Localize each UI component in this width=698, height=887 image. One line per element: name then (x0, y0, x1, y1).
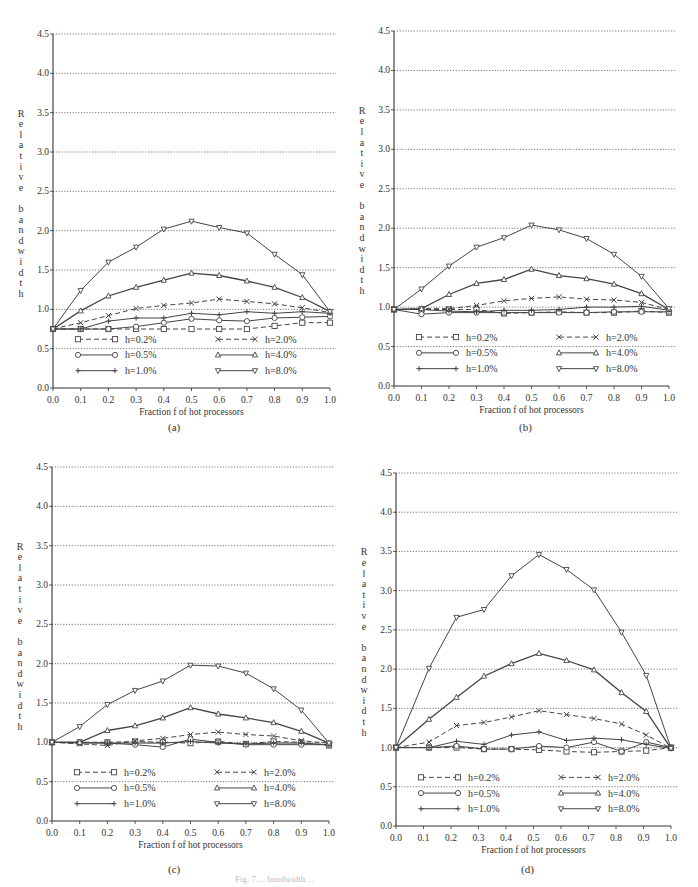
triangle-down-marker (454, 615, 459, 620)
y-tick-label: 1.0 (37, 304, 49, 314)
legend-label: h=8.0% (265, 365, 296, 376)
y-axis-label-letter: a (18, 572, 23, 583)
y-axis-label-letter: d (360, 232, 365, 243)
panel-label-c: (c) (168, 863, 180, 875)
series-line (396, 711, 671, 749)
x-tick-label: 0.7 (583, 833, 595, 843)
triangle-down-marker (272, 252, 277, 257)
panel-label-a: (a) (168, 421, 180, 433)
plus-marker (509, 732, 514, 737)
cross-marker (644, 732, 649, 737)
plus-marker (217, 312, 222, 317)
series-h-1-0- (391, 304, 671, 315)
x-tick-label: 0.0 (388, 393, 400, 403)
x-tick-label: 0.5 (186, 395, 198, 405)
y-tick-label: 0.0 (37, 383, 49, 393)
circle-marker (619, 749, 624, 754)
y-axis-label-letter: R (361, 546, 368, 557)
x-axis-label: Fraction f of hot processors (479, 405, 584, 415)
y-tick-label: 2.0 (378, 223, 390, 233)
y-tick-label: 1.5 (380, 703, 392, 713)
plus-marker (564, 738, 569, 743)
y-tick-label: 0.5 (378, 342, 390, 352)
plus-marker (74, 801, 79, 806)
plus-marker (161, 315, 166, 320)
chart-a-svg: 0.00.51.01.52.02.53.03.54.04.50.00.10.20… (0, 0, 349, 420)
triangle-down-marker (564, 567, 569, 572)
y-axis-label-letter: t (361, 274, 364, 285)
y-tick-label: 3.5 (37, 108, 49, 118)
y-axis-label-letter: e (18, 615, 23, 626)
circle-marker (453, 350, 458, 355)
y-axis-label-letter: h (19, 288, 24, 299)
x-axis-label: Fraction f of hot processors (139, 407, 244, 417)
legend-label: h=2.0% (606, 332, 637, 343)
y-axis-label-letter: e (360, 179, 365, 190)
legend-label: h=0.2% (466, 332, 497, 343)
x-tick-label: 0.8 (268, 828, 280, 838)
circle-marker (272, 315, 277, 320)
x-tick-label: 1.0 (323, 828, 335, 838)
triangle-up-marker (454, 694, 459, 699)
y-tick-label: 4.5 (380, 468, 392, 478)
y-tick-label: 3.0 (380, 586, 392, 596)
y-axis-label-letter: v (18, 604, 23, 615)
circle-marker (454, 743, 459, 748)
legend-label: h=4.0% (608, 788, 639, 799)
y-tick-label: 2.5 (378, 184, 390, 194)
series-line (396, 555, 671, 749)
y-axis-label-letter: n (19, 224, 24, 235)
x-tick-label: 0.3 (130, 395, 142, 405)
y-axis-label-letter: a (362, 578, 367, 589)
x-tick-label: 0.5 (528, 833, 540, 843)
plus-marker (106, 319, 111, 324)
y-tick-label: 1.5 (37, 265, 49, 275)
y-axis-label-letter: e (19, 118, 24, 129)
y-axis-label-letter: t (363, 589, 366, 600)
y-axis-label-letter: w (358, 243, 366, 254)
y-tick-label: 0.0 (378, 381, 390, 391)
x-tick-label: 0.6 (212, 828, 224, 838)
plus-marker (75, 368, 80, 373)
y-axis-label-letter: n (362, 663, 367, 674)
y-axis-label-letter: d (362, 705, 367, 716)
x-tick-label: 0.9 (295, 828, 307, 838)
circle-marker (639, 309, 644, 314)
y-tick-label: 4.0 (37, 68, 49, 78)
y-axis-label-letter: i (363, 599, 366, 610)
y-axis-label-letter: d (360, 264, 365, 275)
legend-label: h=0.2% (468, 772, 499, 783)
y-axis-label-letter: d (19, 235, 24, 246)
chart-b-svg: 0.00.51.01.52.02.53.03.54.04.50.00.10.20… (349, 0, 698, 420)
y-axis-label-letter: t (20, 277, 23, 288)
square-marker (189, 326, 194, 331)
y-axis-label-letter: d (19, 267, 24, 278)
y-axis-label-letter: i (361, 158, 364, 169)
legend-label: h=0.5% (124, 782, 155, 793)
circle-marker (112, 352, 117, 357)
square-marker (161, 326, 166, 331)
series-h-4-0- (393, 650, 673, 750)
y-tick-label: 0.5 (380, 782, 392, 792)
plus-marker (454, 739, 459, 744)
circle-marker (74, 785, 79, 790)
x-tick-label: 0.7 (581, 393, 593, 403)
circle-marker (419, 312, 424, 317)
y-axis-label-letter: h (18, 721, 23, 732)
square-marker (418, 775, 423, 780)
x-tick-label: 0.1 (416, 393, 428, 403)
y-axis-label-letter: h (360, 285, 365, 296)
series-h-4-0- (391, 266, 671, 311)
y-axis-label-letter: b (360, 200, 365, 211)
y-axis-label-letter: n (18, 657, 23, 668)
legend: h=0.2%h=0.5%h=1.0%h=2.0%h=4.0%h=8.0% (416, 332, 637, 375)
legend-label: h=4.0% (264, 782, 295, 793)
square-marker (75, 337, 80, 342)
y-tick-label: 2.0 (37, 226, 49, 236)
triangle-down-marker (474, 245, 479, 250)
legend: h=0.2%h=0.5%h=1.0%h=2.0%h=4.0%h=8.0% (418, 772, 639, 814)
x-tick-label: 0.3 (473, 833, 485, 843)
x-tick-label: 0.4 (158, 395, 170, 405)
x-tick-label: 0.5 (526, 393, 538, 403)
plus-marker (418, 806, 423, 811)
